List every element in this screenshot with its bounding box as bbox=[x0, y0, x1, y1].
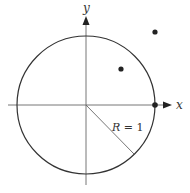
radius-label-eq: = bbox=[120, 121, 136, 134]
x-axis-arrow-icon bbox=[163, 102, 172, 109]
radius-label-value: 1 bbox=[137, 121, 144, 134]
x-axis-label: x bbox=[176, 98, 183, 112]
point-inside-circle bbox=[118, 66, 123, 71]
y-axis-label: y bbox=[82, 1, 90, 15]
radius-label-var: R bbox=[111, 121, 120, 134]
unit-circle-diagram: x y R = 1 bbox=[0, 0, 190, 193]
radius-label: R = 1 bbox=[111, 121, 144, 134]
point-on-circle bbox=[152, 102, 158, 108]
y-axis-arrow-icon bbox=[83, 16, 90, 25]
point-outside-circle bbox=[152, 29, 157, 34]
